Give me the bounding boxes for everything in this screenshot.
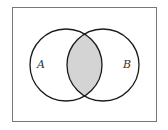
set-a-label: A: [36, 58, 45, 71]
set-b-label: B: [122, 58, 131, 71]
venn-diagram: A B: [0, 0, 168, 130]
